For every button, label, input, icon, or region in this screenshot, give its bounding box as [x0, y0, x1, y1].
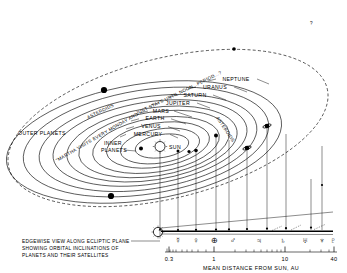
- label-earth: EARTH: [145, 115, 164, 121]
- planet-body-asteroid-a: [187, 150, 190, 153]
- planet-body-jupiter: [101, 87, 107, 93]
- edgewise-sun-icon: [153, 227, 162, 236]
- mnemonic-part-1: "MARTHA VISITS EVERY MONDAY AND: [55, 111, 139, 163]
- axis-major-ticks: [169, 247, 334, 253]
- label-mercury: MERCURY: [134, 131, 163, 137]
- label-jupiter: JUPITER: [166, 100, 190, 106]
- mnemonic-part-2: JUST STAYS UNTIL NOON...PERIOD...?: [135, 70, 222, 116]
- label-mars: MARS: [153, 108, 170, 114]
- mnemonic-group: "MARTHA VISITS EVERY MONDAY AND JUST STA…: [55, 21, 313, 163]
- axis-tick-1: 1: [212, 256, 215, 262]
- planet-bodies-group: [101, 47, 272, 199]
- edgewise-caption-group: EDGEWISE VIEW ALONG ECLIPTIC PLANE SHOWI…: [22, 239, 160, 258]
- planet-body-venus: [194, 149, 198, 153]
- symbol-pluto: ♇: [330, 236, 336, 245]
- label-uranus: URANUS: [203, 84, 227, 90]
- label-venus: VENUS: [141, 123, 161, 129]
- caption-line-3: PLANETS AND THEIR SATELLITES: [22, 253, 109, 258]
- symbol-jupiter: ♃: [256, 236, 262, 245]
- distance-axis-group: 0.3 1 10 40 MEAN DISTANCE FROM SUN, AU: [165, 247, 338, 272]
- symbol-mercury: ☿: [175, 236, 181, 245]
- edgewise-view-group: [152, 184, 333, 239]
- caption-line-2: SHOWING ORBITAL INCLINATIONS OF: [22, 246, 119, 251]
- symbol-neptune: ♆: [319, 236, 325, 245]
- orbit-uranus: [15, 71, 276, 213]
- axis-tick-10: 10: [282, 256, 289, 262]
- symbol-earth: ⊕: [211, 236, 218, 245]
- label-inner-planets-line2: PLANETS: [101, 147, 127, 153]
- inclination-ticks: [272, 225, 325, 231]
- symbol-saturn: ♄: [280, 236, 286, 245]
- axis-tick-0-3: 0.3: [165, 256, 174, 262]
- symbol-uranus: ♅: [302, 236, 308, 245]
- label-outer-planets: OUTER PLANETS: [18, 130, 66, 136]
- planet-symbol-row: ☿ ♀ ⊕ ♂ ♃ ♄ ♅ ♆ ♇: [175, 236, 336, 245]
- projection-lines-group: [160, 128, 322, 232]
- planet-body-uranus: [262, 123, 271, 129]
- axis-minor-ticks: [167, 249, 329, 253]
- axis-tick-40: 40: [331, 256, 338, 262]
- label-neptune: NEPTUNE: [222, 76, 249, 82]
- figure-canvas: SUN MERCURY VENUS: [0, 0, 347, 273]
- planet-body-mars: [214, 134, 218, 138]
- label-saturn: SATURN: [183, 92, 206, 98]
- planet-body-saturn: [242, 145, 251, 151]
- axis-title: MEAN DISTANCE FROM SUN, AU: [203, 265, 299, 271]
- region-label-group: OUTER PLANETS INNER PLANETS ASTEROIDS AS…: [18, 103, 236, 153]
- symbol-mars: ♂: [230, 236, 236, 245]
- planet-body-neptune: [108, 193, 114, 199]
- sun-label: SUN: [169, 144, 181, 150]
- caption-line-1: EDGEWISE VIEW ALONG ECLIPTIC PLANE: [22, 239, 130, 244]
- label-inner-planets-line1: INNER: [104, 140, 122, 146]
- pluto-question-mark: ?: [310, 21, 313, 26]
- symbol-venus: ♀: [193, 236, 199, 245]
- edgewise-planet-dots: [177, 184, 323, 231]
- label-asteroids-right: ASTEROIDS: [215, 116, 236, 143]
- planet-body-pluto: [232, 47, 236, 51]
- sun-icon: [155, 142, 165, 152]
- planet-body-earth: [139, 147, 143, 151]
- solar-system-diagram: SUN MERCURY VENUS: [0, 0, 347, 273]
